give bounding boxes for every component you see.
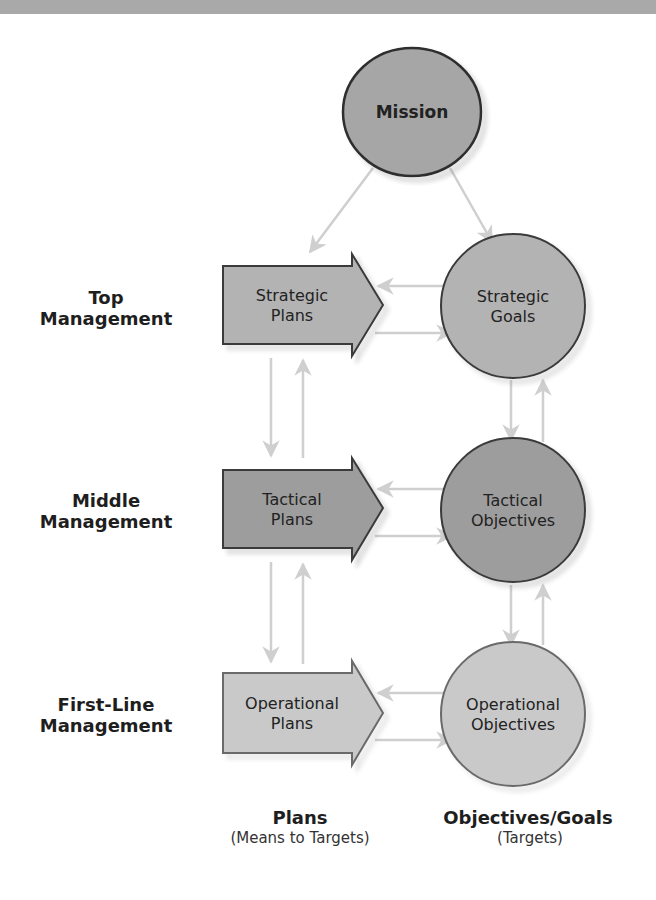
objectives-column-title: Objectives/Goals xyxy=(400,807,656,828)
plan-line1: Strategic xyxy=(222,286,362,306)
goal-line2: Goals xyxy=(443,307,583,327)
plan-line2: Plans xyxy=(222,510,362,530)
level-label-line2: Management xyxy=(6,308,206,329)
level-label-line2: Management xyxy=(6,511,206,532)
goal-line1: Operational xyxy=(443,695,583,715)
plan-line2: Plans xyxy=(222,714,362,734)
mission-connectors xyxy=(310,168,492,252)
tactical-objectives-label: Tactical Objectives xyxy=(443,491,583,531)
tactical-plans-label: Tactical Plans xyxy=(222,490,362,530)
mission-label: Mission xyxy=(343,102,481,122)
planning-diagram xyxy=(0,0,656,900)
strategic-plans-label: Strategic Plans xyxy=(222,286,362,326)
level-label-line1: Middle xyxy=(6,490,206,511)
level-label-first-line: First-Line Management xyxy=(6,694,206,736)
level-label-top: Top Management xyxy=(6,287,206,329)
plan-line1: Operational xyxy=(222,694,362,714)
operational-plans-label: Operational Plans xyxy=(222,694,362,734)
goal-line2: Objectives xyxy=(443,715,583,735)
strategic-goals-label: Strategic Goals xyxy=(443,287,583,327)
goal-line1: Strategic xyxy=(443,287,583,307)
level-label-line1: Top xyxy=(6,287,206,308)
level-label-line1: First-Line xyxy=(6,694,206,715)
level-label-middle: Middle Management xyxy=(6,490,206,532)
objectives-column-subtitle: (Targets) xyxy=(430,829,630,847)
level-label-line2: Management xyxy=(6,715,206,736)
plans-column-subtitle: (Means to Targets) xyxy=(190,829,410,847)
plan-line2: Plans xyxy=(222,306,362,326)
operational-objectives-label: Operational Objectives xyxy=(443,695,583,735)
plan-line1: Tactical xyxy=(222,490,362,510)
plans-column-title: Plans xyxy=(200,807,400,828)
goal-line2: Objectives xyxy=(443,511,583,531)
goal-line1: Tactical xyxy=(443,491,583,511)
